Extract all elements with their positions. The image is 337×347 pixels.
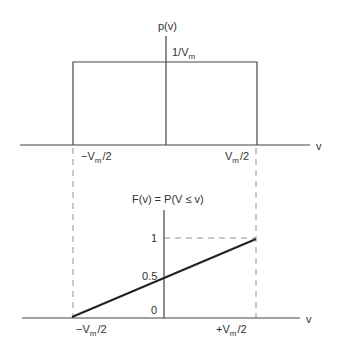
cdf-ylabel: F(v) = P(V ≤ v) (132, 193, 204, 205)
pdf-right-tick-label: Vm/2 (225, 150, 249, 165)
cdf-tick-1: 1 (151, 232, 157, 244)
cdf-xlabel: v (306, 313, 312, 325)
pdf-ylabel: p(v) (158, 20, 177, 32)
pdf-rectangle (73, 62, 257, 145)
pdf-left-tick-label: −Vm/2 (81, 150, 112, 165)
pdf-height-label: 1/Vm (172, 46, 196, 61)
cdf-left-tick-label: −Vm/2 (76, 323, 107, 338)
cdf-right-tick-label: +Vm/2 (216, 323, 247, 338)
pdf-plot: p(v) 1/Vm v −Vm/2 Vm/2 (20, 20, 322, 165)
uniform-distribution-diagram: p(v) 1/Vm v −Vm/2 Vm/2 F(v) = P(V ≤ v) 1… (0, 0, 337, 347)
cdf-tick-05: 0.5 (142, 270, 157, 282)
cdf-tick-0: 0 (151, 304, 157, 316)
pdf-xlabel: v (316, 140, 322, 152)
cdf-plot: F(v) = P(V ≤ v) 1 0.5 0 v −Vm/2 +Vm/2 (22, 193, 312, 338)
